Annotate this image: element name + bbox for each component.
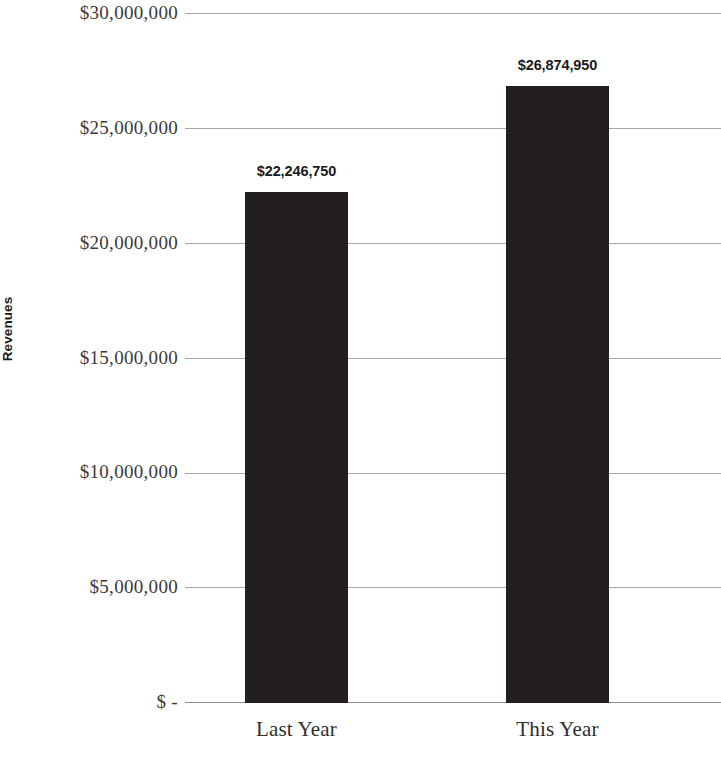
gridline	[185, 13, 721, 14]
y-axis-tick-label: $5,000,000	[0, 576, 178, 598]
y-axis-tick-label: $ -	[0, 691, 178, 713]
bar-last-year[interactable]	[245, 192, 348, 703]
x-axis-tick-label: This Year	[446, 717, 669, 742]
revenues-bar-chart: Revenues $ -$5,000,000$10,000,000$15,000…	[0, 0, 721, 759]
y-axis-tick-label: $30,000,000	[0, 2, 178, 24]
y-axis-title: Revenues	[0, 259, 18, 399]
bar-this-year[interactable]	[506, 86, 609, 703]
bar-value-label: $22,246,750	[205, 163, 388, 179]
bar-value-label: $26,874,950	[466, 57, 649, 73]
gridline	[185, 128, 721, 129]
y-axis-tick-label: $25,000,000	[0, 117, 178, 139]
x-axis-tick-label: Last Year	[185, 717, 408, 742]
y-axis-tick-label: $15,000,000	[0, 347, 178, 369]
y-axis-tick-label: $10,000,000	[0, 461, 178, 483]
y-axis-tick-label: $20,000,000	[0, 232, 178, 254]
